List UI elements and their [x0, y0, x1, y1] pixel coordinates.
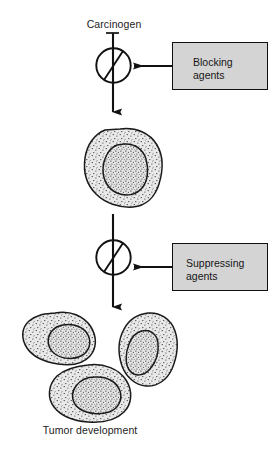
tumor-cell-left	[23, 312, 96, 364]
diagram-canvas: Carcinogen Blocking agents Suppressing a…	[0, 0, 275, 453]
initiated-cell	[84, 129, 162, 208]
tumor-cell-right	[119, 313, 177, 386]
tumor-cell-bottom	[49, 365, 130, 423]
diagram-vector-layer	[0, 0, 275, 453]
